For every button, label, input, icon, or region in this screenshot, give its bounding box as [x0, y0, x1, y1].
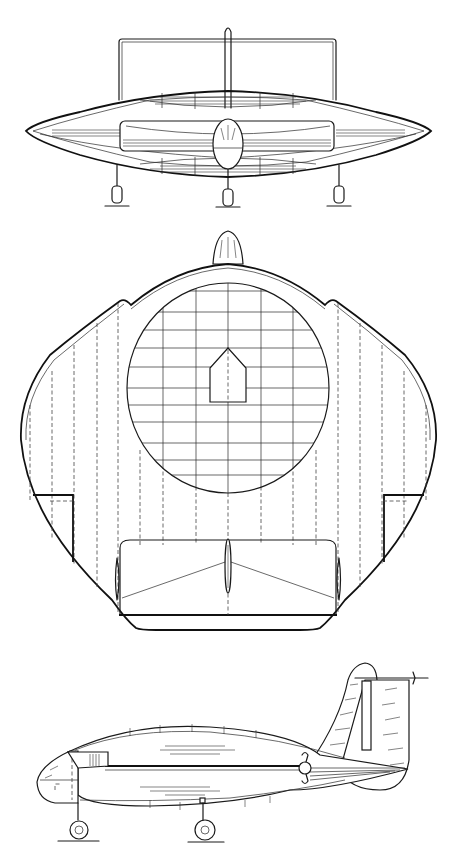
front-landing-gear	[105, 165, 351, 207]
top-view	[21, 231, 436, 630]
nose-cone	[213, 231, 243, 264]
three-view-drawing	[0, 0, 458, 859]
gear-left	[105, 165, 129, 206]
nose-wheel	[58, 803, 99, 841]
rudder-top	[225, 539, 231, 593]
front-view	[26, 28, 431, 207]
side-view	[37, 663, 428, 842]
vertical-fin	[225, 28, 231, 108]
gear-center	[216, 169, 240, 207]
gear-right	[327, 165, 351, 206]
aircraft-drawing-svg	[0, 0, 458, 859]
circular-panel	[120, 280, 340, 500]
front-nacelle	[213, 119, 243, 169]
